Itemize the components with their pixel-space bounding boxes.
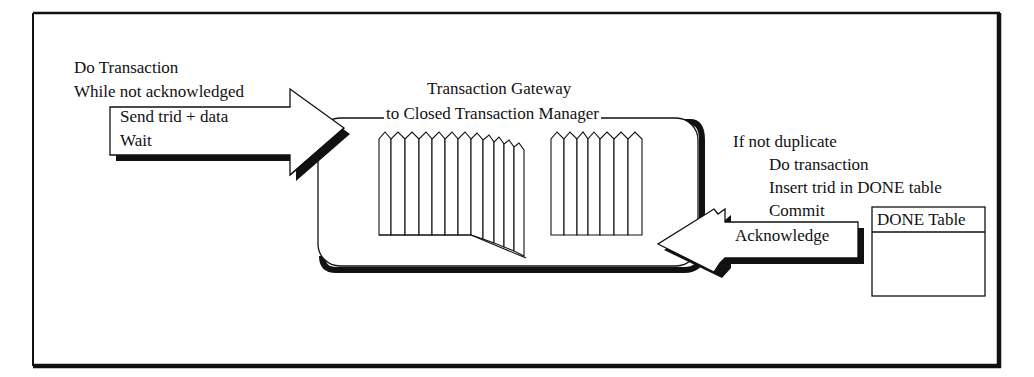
- done-table-header: DONE Table: [877, 210, 966, 230]
- client-line-do-transaction: Do Transaction: [74, 58, 178, 78]
- server-condition: If not duplicate: [733, 132, 837, 152]
- server-step-commit: Commit: [769, 201, 825, 221]
- gateway-title-line1: Transaction Gateway: [427, 79, 571, 99]
- server-step-do-transaction: Do transaction: [769, 155, 869, 175]
- send-arrow-line-wait: Wait: [120, 131, 152, 151]
- client-line-while-not-acknowledged: While not acknowledged: [74, 82, 244, 102]
- server-step-insert-trid: Insert trid in DONE table: [769, 178, 942, 198]
- gateway-title-line2: to Closed Transaction Manager: [384, 104, 601, 124]
- acknowledge-label: Acknowledge: [735, 226, 829, 246]
- send-arrow-line-send: Send trid + data: [120, 107, 228, 127]
- fence-right: [551, 132, 642, 235]
